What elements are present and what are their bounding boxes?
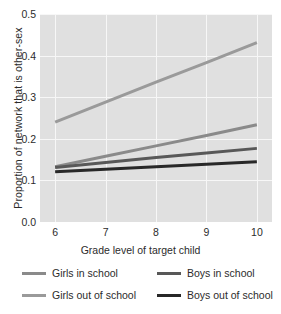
plot-area	[40, 14, 272, 222]
series-line	[55, 43, 257, 122]
legend-label: Girls out of school	[52, 290, 136, 301]
legend-label: Boys out of school	[187, 290, 273, 301]
y-tick-label: 0.0	[0, 216, 36, 228]
y-tick-label: 0.2	[0, 133, 36, 145]
legend-line-icon	[22, 272, 46, 275]
legend-line-icon	[157, 294, 181, 297]
legend-line-icon	[157, 272, 181, 275]
x-axis-title: Grade level of target child	[0, 244, 281, 256]
x-tick-label: 7	[103, 226, 109, 238]
x-tick-label: 9	[203, 226, 209, 238]
y-tick-label: 0.5	[0, 8, 36, 20]
chart-legend: Girls in schoolBoys in schoolGirls out o…	[0, 264, 281, 310]
legend-label: Girls in school	[52, 268, 118, 279]
x-tick-label: 8	[153, 226, 159, 238]
legend-item[interactable]: Girls in school	[22, 268, 118, 279]
y-tick-label: 0.1	[0, 174, 36, 186]
y-tick-label: 0.4	[0, 50, 36, 62]
x-tick-label: 6	[52, 226, 58, 238]
x-axis-tick-labels: 678910	[40, 226, 272, 242]
legend-label: Boys in school	[187, 268, 255, 279]
y-tick-label: 0.3	[0, 91, 36, 103]
legend-line-icon	[22, 294, 46, 297]
data-lines	[40, 14, 272, 222]
legend-item[interactable]: Girls out of school	[22, 290, 136, 301]
legend-item[interactable]: Boys in school	[157, 268, 255, 279]
chart-figure: Proportion of network that is other-sex …	[0, 0, 281, 314]
series-line	[55, 125, 257, 167]
x-tick-label: 10	[251, 226, 263, 238]
legend-item[interactable]: Boys out of school	[157, 290, 273, 301]
